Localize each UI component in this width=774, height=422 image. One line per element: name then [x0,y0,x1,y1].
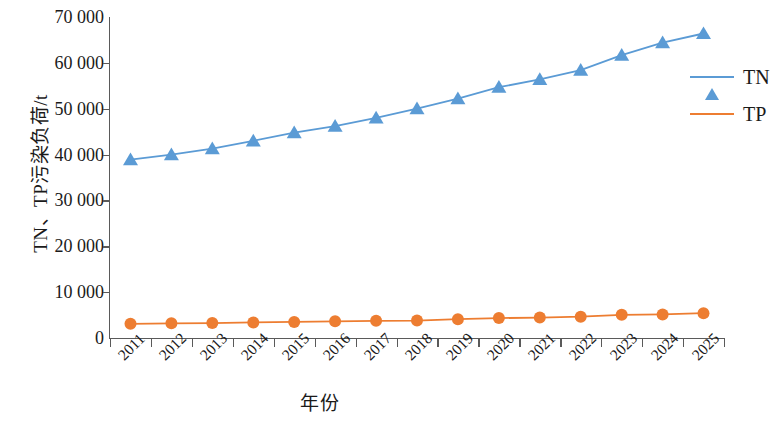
legend-key-tp [690,105,734,123]
x-axis-tick [397,339,398,347]
x-axis-tick [151,339,152,347]
x-axis-tick [315,339,316,347]
data-point-tp-2023[interactable] [616,309,628,321]
x-axis-tick [274,339,275,347]
plot-area [110,17,724,338]
y-axis-tick-label: 30 000 [26,191,104,209]
x-axis-tick [110,339,111,347]
y-axis-tick-label: 40 000 [26,146,104,164]
y-axis-tick-label: 50 000 [26,100,104,118]
y-axis-tick [103,246,110,247]
x-axis-tick [601,339,602,347]
triangle-marker-icon [705,71,719,89]
data-point-tp-2018[interactable] [411,315,423,327]
x-axis-tick [519,339,520,347]
chart-legend: TN TP [690,58,774,132]
x-axis-tick [683,339,684,347]
x-axis-tick [478,339,479,347]
data-point-tp-2021[interactable] [534,312,546,324]
data-point-tp-2017[interactable] [370,315,382,327]
y-axis-tick-label: 20 000 [26,237,104,255]
legend-item-tn[interactable]: TN [690,58,774,95]
x-axis-tick [642,339,643,347]
series-svg [110,17,724,338]
y-axis-tick [103,292,110,293]
data-point-tp-2012[interactable] [165,317,177,329]
data-point-tp-2011[interactable] [125,318,137,330]
data-point-tn-2022[interactable] [573,63,588,76]
x-axis-tick [560,339,561,347]
x-axis-title: 年份 [0,388,640,415]
y-axis-tick [103,155,110,156]
legend-label-tn: TN [734,67,770,87]
series-line-tn [131,34,704,160]
y-axis-tick-label: 70 000 [26,8,104,26]
x-axis-tick [192,339,193,347]
data-point-tp-2022[interactable] [575,311,587,323]
legend-key-tn [690,68,734,86]
data-point-tp-2013[interactable] [206,317,218,329]
legend-label-tp: TP [734,104,766,124]
data-point-tp-2014[interactable] [247,316,259,328]
y-axis-tick-label: 0 [26,329,104,347]
data-point-tp-2016[interactable] [329,315,341,327]
data-point-tp-2020[interactable] [493,312,505,324]
x-axis-tick [437,339,438,347]
data-point-tp-2025[interactable] [698,307,710,319]
data-point-tp-2015[interactable] [288,316,300,328]
legend-line-tp [690,113,734,115]
data-point-tp-2024[interactable] [657,308,669,320]
y-axis-tick-label: 60 000 [26,54,104,72]
data-point-tp-2019[interactable] [452,313,464,325]
x-axis-tick [356,339,357,347]
data-point-tn-2025[interactable] [696,26,711,39]
y-axis-tick [103,109,110,110]
y-axis-tick [103,63,110,64]
x-axis-tick [724,339,725,347]
y-axis-tick [103,200,110,201]
y-axis-tick-labels: 70 00060 00050 00040 00030 00020 00010 0… [22,0,104,422]
legend-item-tp[interactable]: TP [690,95,774,132]
x-axis-tick [233,339,234,347]
y-axis-tick-label: 10 000 [26,283,104,301]
